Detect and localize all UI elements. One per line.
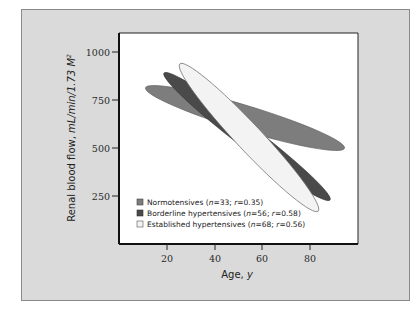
y-axis-ticks: 1000 750 500 250: [86, 47, 119, 202]
legend-swatch-icon: [137, 221, 143, 227]
legend-label: Established hypertensives (n=68; r=0.56): [147, 220, 305, 229]
legend-item-normotensives: Normotensives (n=33; r=0.35): [137, 198, 263, 207]
y-tick-label: 250: [92, 191, 110, 202]
legend-label: Normotensives (n=33; r=0.35): [147, 198, 263, 207]
chart-svg: 1000 750 500 250 20 40 60 80 Age, y Rena…: [0, 0, 417, 316]
legend-swatch-icon: [137, 199, 143, 205]
legend-swatch-icon: [137, 210, 143, 216]
y-tick-label: 500: [92, 143, 110, 154]
x-tick-label: 60: [256, 253, 268, 264]
legend-item-borderline: Borderline hypertensives (n=56; r=0.58): [137, 209, 301, 218]
y-axis-title: Renal blood flow, mL/min/1.73 M2: [65, 54, 77, 222]
x-tick-label: 20: [161, 253, 173, 264]
x-axis-title: Age, y: [221, 269, 254, 280]
x-tick-label: 40: [209, 253, 221, 264]
x-tick-label: 80: [304, 253, 316, 264]
legend-label: Borderline hypertensives (n=56; r=0.58): [147, 209, 301, 218]
y-tick-label: 750: [92, 95, 110, 106]
legend-item-established: Established hypertensives (n=68; r=0.56): [137, 220, 305, 229]
x-axis-ticks: 20 40 60 80: [161, 244, 316, 264]
y-tick-label: 1000: [86, 47, 110, 58]
